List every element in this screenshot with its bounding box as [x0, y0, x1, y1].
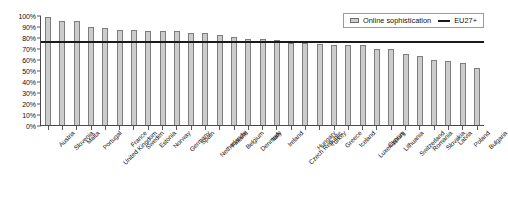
bar — [417, 56, 423, 125]
bar-slot — [127, 16, 141, 125]
bar-slot — [398, 16, 412, 125]
bar-slot — [55, 16, 69, 125]
bar-slot — [356, 16, 370, 125]
bar — [174, 31, 180, 125]
bar — [231, 37, 237, 125]
bar — [117, 30, 123, 125]
bar-slot — [298, 16, 312, 125]
y-tick-label: 70% — [22, 46, 36, 53]
bar — [160, 31, 166, 125]
bar-slot — [441, 16, 455, 125]
bar-slot — [470, 16, 484, 125]
legend-label-online-sophistication: Online sophistication — [363, 17, 431, 24]
y-tick-label: 100% — [18, 13, 36, 20]
bar — [274, 40, 280, 125]
bar — [217, 35, 223, 125]
y-tick-label: 0% — [26, 123, 36, 130]
bar — [403, 54, 409, 125]
chart-legend: Online sophistication EU27+ — [343, 13, 484, 28]
legend-item-eu27: EU27+ — [438, 17, 477, 24]
y-tick-label: 60% — [22, 57, 36, 64]
plot-area — [41, 16, 484, 125]
bar-slot — [213, 16, 227, 125]
bar — [360, 45, 366, 125]
bar-slot — [184, 16, 198, 125]
bar-slot — [313, 16, 327, 125]
bar-slot — [370, 16, 384, 125]
bar — [131, 30, 137, 125]
line-swatch-icon — [438, 20, 450, 22]
bar-swatch-icon — [350, 18, 359, 23]
bar — [45, 17, 51, 125]
legend-label-eu27: EU27+ — [454, 17, 477, 24]
bar-slot — [141, 16, 155, 125]
y-tick-label: 20% — [22, 101, 36, 108]
bar-slot — [384, 16, 398, 125]
legend-item-online-sophistication: Online sophistication — [350, 17, 431, 24]
y-tick-label: 30% — [22, 90, 36, 97]
bar — [431, 60, 437, 125]
bar-slot — [98, 16, 112, 125]
y-tick-label: 50% — [22, 68, 36, 75]
y-axis: 0%10%20%30%40%50%60%70%80%90%100% — [0, 12, 36, 129]
bar — [374, 49, 380, 125]
x-tick-label: Portugal — [102, 130, 123, 151]
bar-series — [41, 16, 484, 125]
bar-slot — [427, 16, 441, 125]
bar — [245, 39, 251, 125]
bar — [288, 43, 294, 125]
bar — [188, 33, 194, 125]
bar — [331, 45, 337, 125]
bar — [74, 21, 80, 125]
bar-slot — [41, 16, 55, 125]
bar-slot — [327, 16, 341, 125]
bar — [474, 68, 480, 125]
bar — [388, 49, 394, 125]
bar — [145, 31, 151, 125]
bar-slot — [227, 16, 241, 125]
bar — [260, 39, 266, 125]
bar — [445, 61, 451, 125]
bar-slot — [284, 16, 298, 125]
bar-slot — [241, 16, 255, 125]
bar — [59, 21, 65, 125]
bar — [345, 45, 351, 125]
bar — [460, 63, 466, 125]
bar-slot — [70, 16, 84, 125]
eu27-reference-line — [41, 41, 484, 43]
x-axis-labels: AustriaSloveniaMaltaPortugalUnited Kingd… — [41, 130, 484, 202]
y-tick-label: 40% — [22, 79, 36, 86]
x-tick-label: Ireland — [286, 130, 304, 148]
bar-slot — [270, 16, 284, 125]
y-tick-label: 80% — [22, 35, 36, 42]
bar-slot — [155, 16, 169, 125]
bar-slot — [112, 16, 126, 125]
y-tick-label: 10% — [22, 112, 36, 119]
bar-slot — [198, 16, 212, 125]
bar-slot — [341, 16, 355, 125]
bar — [202, 33, 208, 125]
bar-slot — [456, 16, 470, 125]
bar-slot — [255, 16, 269, 125]
bar-slot — [170, 16, 184, 125]
bar-slot — [413, 16, 427, 125]
bar-slot — [84, 16, 98, 125]
y-tick-label: 90% — [22, 24, 36, 31]
bar — [317, 44, 323, 125]
bar — [302, 43, 308, 125]
